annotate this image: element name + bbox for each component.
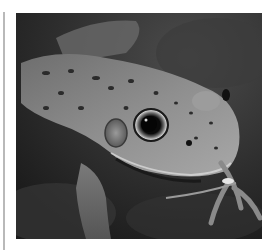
side-divider-line	[3, 12, 5, 250]
frog-illustration	[16, 13, 262, 239]
frog-photo	[16, 13, 262, 239]
frog-tympanum	[105, 119, 127, 147]
